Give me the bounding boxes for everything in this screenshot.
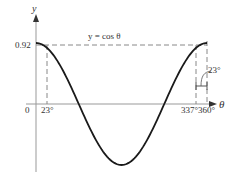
- interval-callout-label: 23°: [208, 65, 221, 75]
- cosine-chart: y θ 0 0.92 y = cos θ 23° 337° 360° 23°: [0, 0, 235, 178]
- y-axis-arrow-icon: [33, 14, 39, 22]
- x-tick-360: 360°: [198, 105, 216, 115]
- y-tick-092: 0.92: [15, 40, 31, 50]
- equation-label: y = cos θ: [88, 31, 121, 41]
- x-tick-23: 23°: [41, 105, 54, 115]
- origin-label: 0: [25, 105, 30, 115]
- x-axis-label: θ: [219, 98, 225, 110]
- x-tick-337: 337°: [181, 105, 199, 115]
- y-axis-label: y: [31, 3, 37, 14]
